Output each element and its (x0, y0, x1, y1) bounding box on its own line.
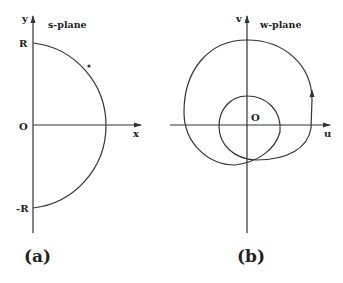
u-axis-label: u (324, 128, 331, 139)
direction-dot (87, 64, 90, 67)
panel-a-s-plane (33, 16, 141, 233)
s-plane-title: s-plane (48, 19, 87, 30)
v-axis-label: v (235, 13, 243, 24)
r-label: R (19, 38, 28, 49)
panel-b-w-plane (170, 16, 330, 233)
x-axis-label: x (133, 128, 140, 139)
spiral-contour (184, 40, 312, 165)
w-plane-title: w-plane (259, 19, 301, 30)
y-axis-label: y (21, 13, 29, 24)
direction-arrow (310, 89, 315, 97)
caption-a: (a) (24, 246, 51, 266)
figure: y s-plane R O x -R (a) v w-plane O u (b) (0, 0, 343, 283)
origin-label-a: O (19, 121, 28, 132)
neg-r-label: -R (16, 203, 29, 214)
origin-label-b: O (251, 112, 260, 123)
caption-b: (b) (237, 246, 265, 266)
